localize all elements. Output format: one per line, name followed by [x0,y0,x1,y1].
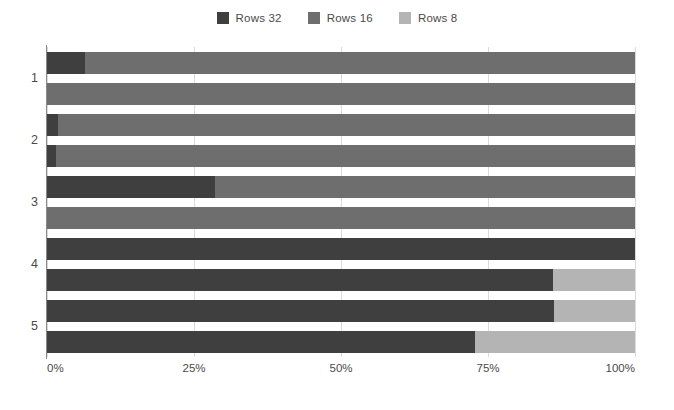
bar-segment[interactable] [85,52,635,74]
bar-segment[interactable] [47,238,635,260]
bar-segment[interactable] [215,176,635,198]
bar-group [47,47,635,357]
legend-label: Rows 32 [236,12,282,24]
bar[interactable] [47,52,635,74]
x-axis-tick-label: 100% [606,362,635,374]
bar-segment[interactable] [56,145,635,167]
bar[interactable] [47,300,635,322]
bar-segment[interactable] [554,300,635,322]
bar-segment[interactable] [47,269,553,291]
y-axis-tick-label: 1 [4,71,38,85]
x-axis-tick-label: 75% [476,362,499,374]
bar-segment[interactable] [47,300,554,322]
bar-segment[interactable] [553,269,635,291]
plot-area [47,47,635,357]
bar[interactable] [47,331,635,353]
bar-segment[interactable] [47,52,85,74]
y-axis-tick-label: 4 [4,257,38,271]
bar[interactable] [47,83,635,105]
bar-segment[interactable] [47,176,215,198]
legend-swatch-icon [399,12,411,24]
bar[interactable] [47,269,635,291]
bar-segment[interactable] [47,114,58,136]
bar-segment[interactable] [47,207,635,229]
chart-legend: Rows 32Rows 16Rows 8 [0,12,674,24]
legend-swatch-icon [308,12,320,24]
x-axis-tick-label: 0% [47,362,64,374]
bar-segment[interactable] [47,331,475,353]
bar[interactable] [47,145,635,167]
gridline [635,47,636,357]
legend-swatch-icon [217,12,229,24]
legend-entry[interactable]: Rows 8 [399,12,458,24]
bar[interactable] [47,176,635,198]
stacked-bar-chart: Rows 32Rows 16Rows 8 12345 0%25%50%75%10… [0,0,674,410]
bar-segment[interactable] [47,83,635,105]
legend-entry[interactable]: Rows 16 [308,12,373,24]
y-axis-tick-label: 3 [4,195,38,209]
bar-segment[interactable] [475,331,635,353]
legend-entry[interactable]: Rows 32 [217,12,282,24]
legend-label: Rows 8 [418,12,458,24]
x-axis-tick-labels: 0%25%50%75%100% [47,362,635,382]
y-axis-tick-label: 2 [4,133,38,147]
bar[interactable] [47,207,635,229]
x-axis-tick-label: 25% [182,362,205,374]
legend-label: Rows 16 [327,12,373,24]
y-axis-tick-label: 5 [4,319,38,333]
x-axis-tick-label: 50% [329,362,352,374]
bar[interactable] [47,238,635,260]
y-axis-tick-labels: 12345 [0,47,38,357]
bar[interactable] [47,114,635,136]
bar-segment[interactable] [47,145,56,167]
bar-segment[interactable] [58,114,635,136]
